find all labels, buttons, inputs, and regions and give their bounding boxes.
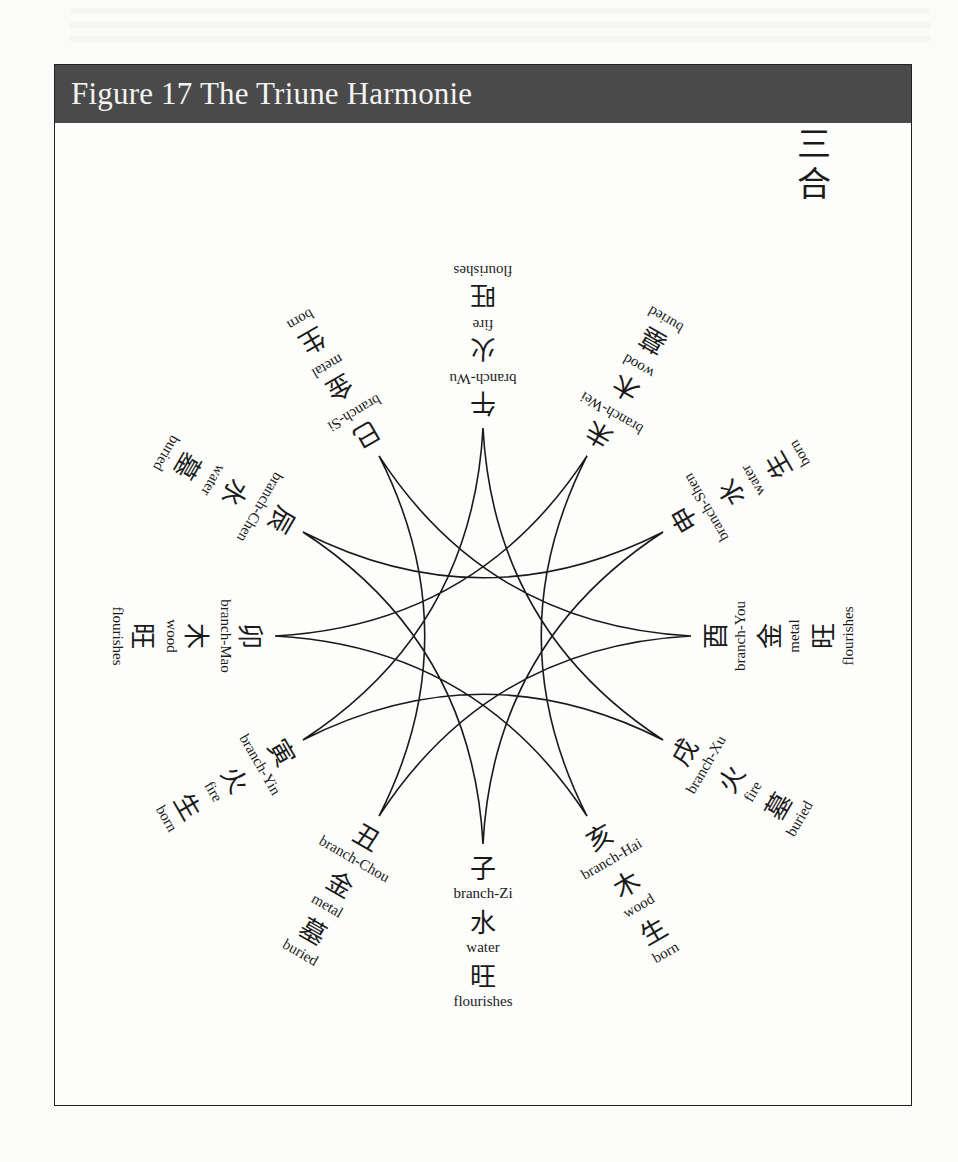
branch-char: 子 — [423, 854, 543, 884]
branch-name: branch-Wu — [423, 370, 543, 387]
element-char: 金 — [755, 576, 785, 696]
branch-char: 午 — [423, 388, 543, 418]
branch-char: 酉 — [701, 576, 731, 696]
branch-label-zi: 子 branch-Zi 水 water 旺 flourishes — [423, 854, 543, 1016]
phase-name: flourishes — [423, 993, 543, 1010]
element-char: 木 — [181, 576, 211, 696]
phase-char: 旺 — [127, 576, 157, 696]
element-name: water — [423, 939, 543, 956]
branch-label-wu: 午 branch-Wu 火 fire 旺 flourishes — [423, 256, 543, 418]
phase-name: flourishes — [423, 262, 543, 279]
star-arcs — [275, 428, 691, 844]
element-name: wood — [163, 576, 180, 696]
element-char: 水 — [423, 908, 543, 938]
branch-label-mao: 卯 branch-Mao 木 wood 旺 flourishes — [103, 576, 265, 696]
phase-name: flourishes — [840, 576, 857, 696]
element-name: metal — [786, 576, 803, 696]
branch-name: branch-Mao — [217, 576, 234, 696]
element-char: 火 — [423, 334, 543, 364]
phase-char: 旺 — [423, 280, 543, 310]
branch-name: branch-You — [732, 576, 749, 696]
branch-label-you: 酉 branch-You 金 metal 旺 flourishes — [701, 576, 863, 696]
phase-char: 旺 — [423, 962, 543, 992]
phase-name: flourishes — [109, 576, 126, 696]
branch-name: branch-Zi — [423, 885, 543, 902]
element-name: fire — [423, 316, 543, 333]
branch-char: 卯 — [235, 576, 265, 696]
phase-char: 旺 — [809, 576, 839, 696]
